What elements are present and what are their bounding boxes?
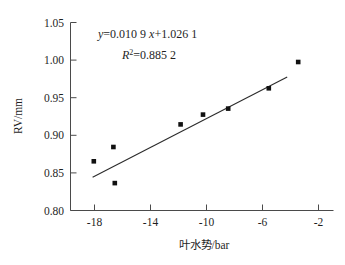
- y-tick-label: 0.85: [44, 167, 64, 179]
- data-point: [201, 112, 206, 117]
- y-tick-labels: 0.80 0.85 0.90 0.95 1.00 1.05: [44, 17, 64, 217]
- x-tick-marks: [95, 205, 319, 211]
- data-point: [267, 86, 272, 91]
- equation-slope-part: =0.010 9: [103, 27, 146, 41]
- x-tick-label: -6: [258, 216, 268, 228]
- y-tick-label: 1.05: [44, 17, 64, 29]
- equation-annotation: y=0.010 9x+1.026 1 R2=0.885 2: [97, 27, 197, 62]
- r-squared-annotation: R2=0.885 2: [121, 48, 176, 62]
- scatter-chart: 0.80 0.85 0.90 0.95 1.00 1.05 -18 -14 -1…: [0, 0, 345, 265]
- data-point: [92, 159, 97, 164]
- chart-canvas: 0.80 0.85 0.90 0.95 1.00 1.05 -18 -14 -1…: [0, 0, 345, 265]
- data-point: [178, 122, 183, 127]
- regression-equation: y=0.010 9x+1.026 1: [97, 27, 197, 41]
- data-points-group: [92, 60, 301, 186]
- x-tick-label: -10: [199, 216, 215, 228]
- y-tick-label: 0.80: [44, 205, 64, 217]
- y-tick-marks: [71, 23, 77, 211]
- data-point: [296, 60, 301, 65]
- x-tick-labels: -18 -14 -10 -6 -2: [87, 216, 324, 228]
- x-tick-label: -14: [143, 216, 159, 228]
- y-axis-title: RV/mm: [12, 98, 24, 134]
- regression-line: [93, 77, 288, 177]
- r-squared-value: =0.885 2: [133, 48, 176, 62]
- x-axis-title: 叶水势/bar: [179, 239, 230, 251]
- x-tick-label: -18: [87, 216, 103, 228]
- data-point: [111, 145, 116, 150]
- y-tick-label: 0.90: [44, 129, 64, 141]
- x-tick-label: -2: [314, 216, 324, 228]
- y-tick-label: 1.00: [44, 54, 64, 66]
- equation-intercept-part: +1.026 1: [154, 27, 197, 41]
- data-point: [226, 106, 231, 111]
- data-point: [113, 181, 118, 186]
- y-tick-label: 0.95: [44, 92, 64, 104]
